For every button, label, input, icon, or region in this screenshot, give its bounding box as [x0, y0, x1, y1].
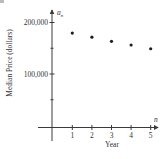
x-tick-label: 2	[90, 131, 94, 140]
x-tick-label: 1	[70, 131, 74, 140]
data-point	[130, 43, 133, 46]
data-points	[71, 31, 153, 50]
y-tick-label: 200,000	[24, 18, 49, 27]
y-tick-label: 100,000	[24, 70, 49, 79]
x-tick-label: 5	[149, 131, 153, 140]
x-axis-title: Year	[105, 140, 119, 149]
data-point	[149, 47, 152, 50]
y-ticks: 100,000200,000	[24, 18, 55, 100]
x-axis-variable-label: n	[154, 115, 158, 124]
scatter-chart: 100,000200,000 12345 an n Year Median Pr…	[0, 0, 165, 159]
data-point	[71, 31, 74, 34]
x-tick-label: 4	[129, 131, 133, 140]
y-axis-variable-label: an	[57, 8, 64, 18]
data-point	[90, 36, 93, 39]
y-axis-title: Median Price (dollars)	[5, 29, 14, 97]
x-tick-label: 3	[110, 131, 114, 140]
data-point	[110, 40, 113, 43]
